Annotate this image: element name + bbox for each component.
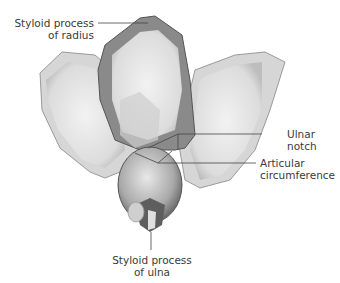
label-line: Ulnar — [287, 128, 317, 140]
label-ulnar-notch: Ulnar notch — [287, 128, 317, 152]
label-line: Styloid process — [100, 254, 204, 266]
label-line: of ulna — [100, 266, 204, 278]
label-line: notch — [287, 140, 317, 152]
radius-bone — [98, 16, 195, 150]
label-line: circumference — [260, 169, 335, 181]
label-styloid-process-radius: Styloid process of radius — [8, 17, 94, 41]
label-line: of radius — [8, 29, 94, 41]
label-line: Styloid process — [8, 17, 94, 29]
label-styloid-process-ulna: Styloid process of ulna — [100, 254, 204, 278]
label-articular-circumference: Articular circumference — [260, 157, 335, 181]
label-line: Articular — [260, 157, 335, 169]
